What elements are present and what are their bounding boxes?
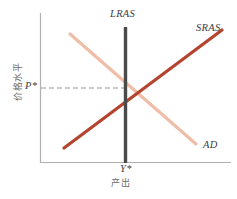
lras-curve-label: LRAS bbox=[110, 8, 135, 19]
equilibrium-price-label: P* bbox=[25, 80, 37, 91]
equilibrium-output-label: Y* bbox=[120, 163, 132, 174]
ad-as-diagram: LRAS SRAS AD P* Y* 价格水平 产出 bbox=[0, 0, 237, 199]
x-axis-title: 产出 bbox=[111, 176, 130, 189]
ad-curve-label: AD bbox=[203, 139, 218, 150]
y-axis-title: 价格水平 bbox=[11, 53, 24, 111]
sras-curve-label: SRAS bbox=[196, 22, 221, 33]
